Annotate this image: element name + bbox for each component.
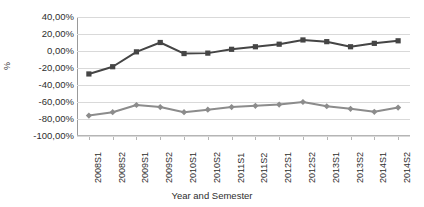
x-tick-mark	[89, 137, 90, 140]
x-tick-mark	[327, 137, 328, 140]
x-tick-mark	[160, 137, 161, 140]
x-tick-mark	[303, 137, 304, 140]
y-tick-label: -60,00%	[12, 97, 74, 107]
x-tick-mark	[184, 137, 185, 140]
x-tick-mark	[113, 137, 114, 140]
data-point-marker	[86, 113, 92, 119]
plot-area	[77, 17, 410, 136]
y-tick-label: -80,00%	[12, 114, 74, 124]
data-point-marker	[252, 103, 258, 109]
data-point-marker	[133, 102, 139, 108]
x-tick-label: 2013S2	[355, 152, 365, 183]
x-tick-mark	[208, 137, 209, 140]
data-point-marker	[134, 49, 139, 54]
x-tick-mark	[374, 137, 375, 140]
x-tick-label: 2008S1	[93, 152, 103, 183]
y-tick-label: -40,00%	[12, 80, 74, 90]
data-point-marker	[300, 37, 305, 42]
y-tick-label: 20,00%	[12, 29, 74, 39]
series-layer	[77, 17, 410, 136]
y-axis-title: %	[2, 62, 12, 70]
data-point-marker	[324, 39, 329, 44]
data-point-marker	[253, 44, 258, 49]
x-tick-mark	[232, 137, 233, 140]
data-point-marker	[277, 42, 282, 47]
x-tick-label: 2009S2	[164, 152, 174, 183]
y-tick-label: -100,00%	[12, 131, 74, 141]
y-tick-label: -20,00%	[12, 63, 74, 73]
data-point-marker	[300, 99, 306, 105]
data-point-marker	[372, 41, 377, 46]
x-tick-label: 2012S1	[283, 152, 293, 183]
data-point-marker	[110, 64, 115, 69]
y-axis-tick-labels: 40,00%20,00%0,00%-20,00%-40,00%-60,00%-8…	[12, 0, 74, 207]
x-tick-label: 2014S2	[402, 152, 412, 183]
y-tick-label: 0,00%	[12, 46, 74, 56]
x-axis-title: Year and Semester	[0, 190, 424, 201]
data-point-marker	[396, 38, 401, 43]
x-tick-mark	[255, 137, 256, 140]
data-point-marker	[347, 106, 353, 112]
x-tick-mark	[279, 137, 280, 140]
data-point-marker	[181, 109, 187, 115]
data-point-marker	[348, 44, 353, 49]
y-tick-label: 40,00%	[12, 12, 74, 22]
x-tick-mark	[136, 137, 137, 140]
x-tick-label: 2014S1	[378, 152, 388, 183]
x-tick-label: 2012S2	[307, 152, 317, 183]
data-point-marker	[157, 104, 163, 110]
x-tick-label: 2010S1	[188, 152, 198, 183]
data-point-marker	[158, 40, 163, 45]
x-tick-label: 2011S2	[259, 153, 269, 183]
data-point-marker	[276, 101, 282, 107]
data-point-marker	[229, 104, 235, 110]
x-tick-label: 2013S1	[331, 152, 341, 183]
data-point-marker	[110, 109, 116, 115]
x-tick-mark	[398, 137, 399, 140]
x-tick-mark	[351, 137, 352, 140]
x-tick-label: 2010S2	[212, 152, 222, 183]
data-point-marker	[371, 109, 377, 115]
x-tick-label: 2011S1	[236, 153, 246, 183]
data-point-marker	[181, 51, 186, 56]
data-point-marker	[324, 103, 330, 109]
line-chart: % 40,00%20,00%0,00%-20,00%-40,00%-60,00%…	[0, 0, 424, 207]
data-point-marker	[395, 104, 401, 110]
data-point-marker	[205, 51, 210, 56]
x-tick-label: 2009S1	[140, 152, 150, 183]
data-point-marker	[86, 71, 91, 76]
data-point-marker	[229, 47, 234, 52]
data-point-marker	[205, 107, 211, 113]
x-axis-tick-labels: 2008S12008S22009S12009S22010S12010S22011…	[77, 137, 410, 185]
x-tick-label: 2008S2	[117, 152, 127, 183]
